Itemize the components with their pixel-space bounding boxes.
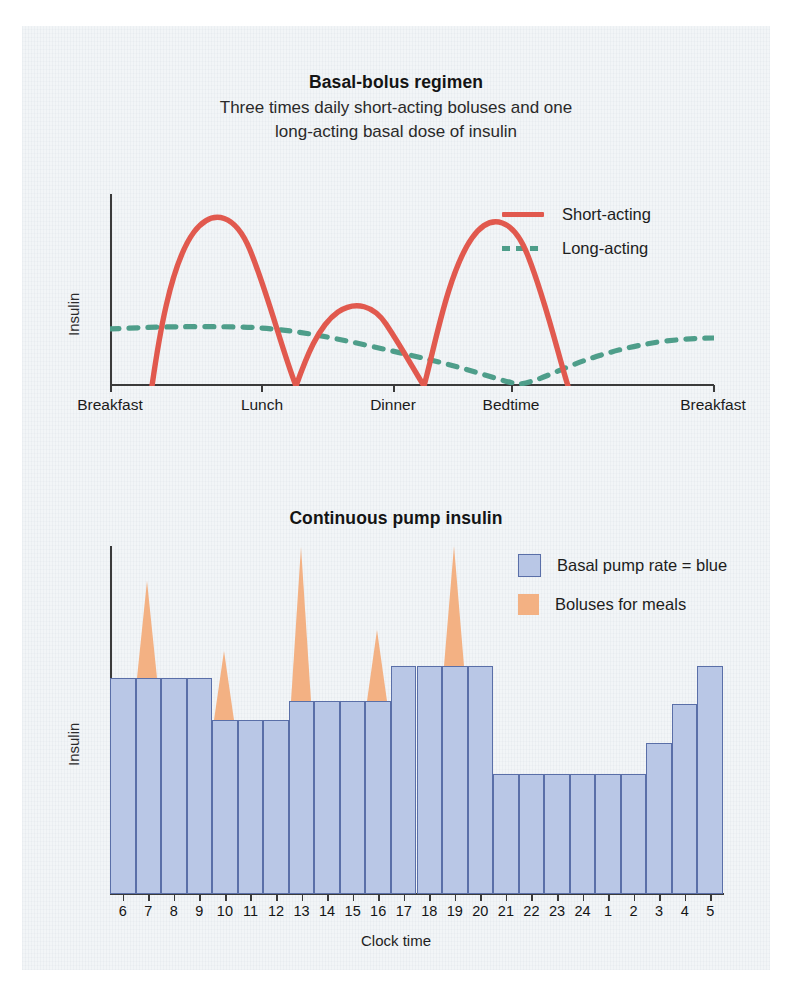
basal-bar-hour-20	[468, 666, 494, 894]
chart2-hour-label-17: 17	[390, 903, 418, 919]
basal-bar-hour-13	[289, 701, 315, 894]
basal-bar-hour-14	[314, 701, 340, 894]
bolus-spike-hour-16	[367, 630, 387, 701]
chart2-hour-label-10: 10	[211, 903, 239, 919]
basal-bar-hour-22	[519, 774, 545, 894]
basal-bar-hour-23	[544, 774, 570, 894]
chart2-hour-label-9: 9	[185, 903, 213, 919]
chart2-x-axis-label: Clock time	[22, 932, 770, 949]
chart2-xtick-24	[583, 894, 585, 901]
basal-bar-hour-10	[212, 720, 238, 894]
chart2-xtick-21	[506, 894, 508, 901]
chart2-xtick-13	[302, 894, 304, 901]
chart2-hour-label-5: 5	[696, 903, 724, 919]
chart2-hour-label-23: 23	[543, 903, 571, 919]
chart-basal-bolus-regimen: Basal-bolus regimen Three times daily sh…	[22, 26, 770, 446]
basal-bar-hour-6	[110, 678, 136, 894]
chart1-xtick-label-bedtime: Bedtime	[451, 396, 571, 414]
basal-bar-hour-11	[238, 720, 264, 894]
chart2-hour-label-7: 7	[134, 903, 162, 919]
basal-bar-hour-18	[417, 666, 443, 894]
chart2-xtick-17	[404, 894, 406, 901]
chart2-title: Continuous pump insulin	[22, 508, 770, 529]
chart1-subtitle-line2: long-acting basal dose of insulin	[22, 120, 770, 144]
basal-bar-hour-12	[263, 720, 289, 894]
chart1-xtick-label-lunch: Lunch	[202, 396, 322, 414]
chart2-hour-label-3: 3	[645, 903, 673, 919]
chart1-subtitle-line1: Three times daily short-acting boluses a…	[22, 96, 770, 120]
bolus-spike-hour-19	[444, 546, 464, 666]
chart1-xtick-1	[261, 385, 263, 392]
basal-bar-hour-9	[187, 678, 213, 894]
chart-continuous-pump-insulin: Continuous pump insulin Basal pump rate …	[22, 446, 770, 970]
chart1-xtick-label-dinner: Dinner	[333, 396, 453, 414]
chart1-xtick-label-breakfast-2: Breakfast	[653, 396, 773, 414]
basal-bar-hour-8	[161, 678, 187, 894]
basal-bar-hour-15	[340, 701, 366, 894]
short-acting-curve	[152, 217, 568, 386]
basal-bar-hour-3	[646, 743, 672, 894]
bolus-spike-hour-13	[291, 547, 311, 701]
figure-page: Basal-bolus regimen Three times daily sh…	[0, 0, 791, 990]
chart2-hour-label-21: 21	[492, 903, 520, 919]
chart2-xtick-6	[123, 894, 125, 901]
chart2-xtick-15	[353, 894, 355, 901]
chart2-y-axis-label: Insulin	[65, 723, 82, 766]
basal-bar-hour-7	[136, 678, 162, 894]
chart1-xtick-4	[713, 385, 715, 392]
chart2-xtick-16	[378, 894, 380, 901]
chart2-xtick-23	[557, 894, 559, 901]
basal-bar-hour-16	[365, 701, 391, 894]
chart1-xtick-0	[110, 385, 112, 392]
chart2-hour-label-1: 1	[594, 903, 622, 919]
chart2-xtick-3	[659, 894, 661, 901]
chart2-hour-label-6: 6	[109, 903, 137, 919]
chart1-xtick-3	[511, 385, 513, 392]
chart2-xtick-5	[710, 894, 712, 901]
chart2-xtick-10	[225, 894, 227, 901]
chart2-xtick-19	[455, 894, 457, 901]
chart2-xtick-20	[480, 894, 482, 901]
chart2-hour-label-15: 15	[339, 903, 367, 919]
chart2-hour-label-4: 4	[671, 903, 699, 919]
chart2-hour-label-13: 13	[288, 903, 316, 919]
chart2-hour-label-16: 16	[364, 903, 392, 919]
chart1-y-axis-label: Insulin	[65, 293, 82, 336]
chart2-hour-label-12: 12	[262, 903, 290, 919]
chart1-xtick-label-breakfast-1: Breakfast	[50, 396, 170, 414]
chart2-hour-label-24: 24	[569, 903, 597, 919]
chart2-xtick-11	[250, 894, 252, 901]
chart2-hour-label-8: 8	[160, 903, 188, 919]
chart2-xtick-4	[685, 894, 687, 901]
chart2-xtick-8	[174, 894, 176, 901]
chart2-xtick-12	[276, 894, 278, 901]
chart2-hour-label-19: 19	[441, 903, 469, 919]
basal-bar-hour-17	[391, 666, 417, 894]
scanned-paper-area: Basal-bolus regimen Three times daily sh…	[22, 26, 770, 970]
basal-bar-hour-21	[493, 774, 519, 894]
chart2-xtick-7	[148, 894, 150, 901]
chart1-title: Basal-bolus regimen	[22, 72, 770, 93]
chart2-hour-label-2: 2	[620, 903, 648, 919]
chart2-xtick-14	[327, 894, 329, 901]
chart2-xtick-22	[531, 894, 533, 901]
bolus-spike-hour-10	[214, 651, 234, 720]
chart2-hour-label-20: 20	[466, 903, 494, 919]
chart1-curves	[110, 194, 714, 386]
chart2-xtick-2	[634, 894, 636, 901]
basal-bar-hour-2	[621, 774, 647, 894]
chart2-hour-label-18: 18	[415, 903, 443, 919]
basal-bar-hour-4	[672, 704, 698, 894]
chart2-hour-label-11: 11	[236, 903, 264, 919]
basal-bar-hour-24	[570, 774, 596, 894]
chart2-xtick-1	[608, 894, 610, 901]
chart2-hour-label-14: 14	[313, 903, 341, 919]
basal-bar-hour-19	[442, 666, 468, 894]
basal-bar-hour-5	[697, 666, 723, 894]
long-acting-curve	[110, 327, 714, 384]
chart2-hour-axis-layer: 678910111213141516171819202122232412345	[110, 894, 723, 928]
basal-bar-hour-1	[595, 774, 621, 894]
chart2-xtick-9	[199, 894, 201, 901]
chart2-bars-layer	[110, 546, 723, 894]
chart2-xtick-18	[429, 894, 431, 901]
